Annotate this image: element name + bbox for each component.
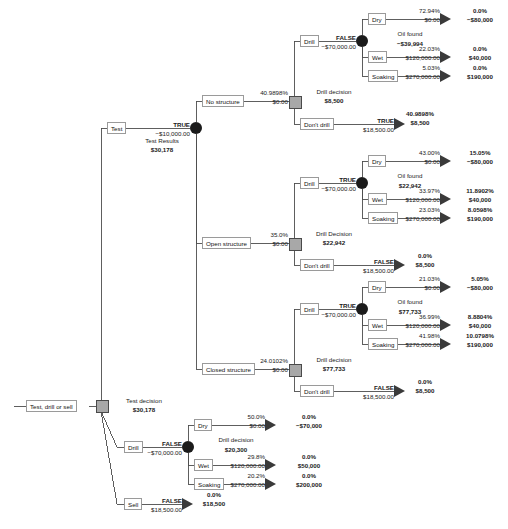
test-results-chance-node[interactable] [190, 122, 202, 134]
closed-structure-wet-prob: 36.99% [384, 313, 440, 320]
no-structure-dont-drill-payoff: $18,500.00 [328, 126, 394, 133]
closed-structure-oil-chance-node[interactable] [356, 303, 368, 315]
closed-structure-wet-end-node [440, 319, 451, 331]
closed-structure-wet-endvalue: $40,000 [455, 322, 505, 329]
drill-wet-end-node [265, 459, 276, 471]
test-results-value: $30,178 [122, 146, 202, 153]
closed-structure-drill-flag: TRUE [294, 302, 356, 309]
open-structure-chance-title: Oil found [376, 172, 444, 179]
closed-structure-soaking-endprob: 10.0798% [452, 332, 508, 339]
closed-structure-dry-end-node [440, 281, 451, 293]
no-structure-wet-end-node [440, 51, 451, 63]
drill-wet-endvalue: $50,000 [282, 462, 336, 469]
closed-structure-soaking-prob: 41.98% [384, 332, 440, 339]
no-structure-soaking-endprob: 0.0% [455, 64, 505, 71]
drill-dry-end-node [265, 419, 276, 431]
open-structure-soaking-prob: 23.03% [384, 206, 440, 213]
closed-structure-wet-endprob: 8.8804% [455, 313, 505, 320]
closed-structure-payoff: $0.00 [216, 366, 288, 373]
closed-structure-dry-endvalue: −$80,000 [455, 284, 505, 291]
sell-endvalue: $18,500 [185, 500, 243, 507]
drill-soaking-end-node [265, 478, 276, 490]
drill-decision-title: Drill decision [200, 436, 272, 443]
open-structure-decision-title: Drill Decision [294, 230, 374, 237]
open-structure-dry-endvalue: −$80,000 [455, 158, 505, 165]
no-structure-drill-cost: −$70,000.00 [288, 43, 356, 50]
open-structure-dry-prob: 43.00% [384, 149, 440, 156]
drill-wet-endprob: 0.0% [282, 453, 336, 460]
no-structure-soaking-endvalue: $190,000 [455, 73, 505, 80]
open-structure-drill-flag: TRUE [294, 176, 356, 183]
open-structure-dry-endprob: 15.05% [455, 149, 505, 156]
drill-flag: FALSE [120, 440, 182, 447]
no-structure-wet-payoff: $120,000.00 [374, 54, 440, 61]
closed-structure-dry-payoff: $0.00 [374, 284, 440, 291]
closed-structure-dont-drill-payoff: $18,500.00 [328, 393, 394, 400]
drill-cost: −$70,000.00 [114, 449, 182, 456]
no-structure-oil-chance-node[interactable] [356, 35, 368, 47]
closed-structure-decision-value: $77,733 [294, 365, 374, 372]
no-structure-dry-endprob: 0.0% [455, 7, 505, 14]
no-structure-prob: 40.9898% [216, 89, 288, 96]
open-structure-dry-end-node [440, 155, 451, 167]
closed-structure-prob: 24.0102% [216, 357, 288, 364]
no-structure-dry-prob: 72.94% [384, 7, 440, 14]
root-decision-title: Test decision [104, 397, 184, 404]
open-structure-dont-drill-flag: FALSE [334, 258, 394, 265]
no-structure-soaking-end-node [440, 70, 451, 82]
closed-structure-dont-drill-endvalue: $8,500 [395, 387, 455, 394]
open-structure-dont-drill-payoff: $18,500.00 [328, 267, 394, 274]
drill-wet-prob: 29.8% [210, 453, 265, 460]
open-structure-soaking-endprob: 8.0598% [455, 206, 505, 213]
closed-structure-chance-title: Oil found [376, 298, 444, 305]
drill-soaking-endvalue: $200,000 [282, 481, 336, 488]
no-structure-chance-title: Oil found [376, 30, 444, 37]
open-structure-wet-payoff: $120,000.00 [374, 196, 440, 203]
open-structure-wet-end-node [440, 193, 451, 205]
drill-dry-endvalue: −$70,000 [282, 422, 336, 429]
test-cost: −$10,000.00 [122, 130, 190, 137]
closed-structure-decision-title: Drill decision [294, 356, 374, 363]
no-structure-decision-title: Drill decision [294, 88, 374, 95]
open-structure-prob: 35.0% [222, 231, 288, 238]
no-structure-wet-endvalue: $40,000 [455, 54, 505, 61]
open-structure-wet-prob: 33.97% [384, 187, 440, 194]
no-structure-payoff: $0.00 [216, 98, 288, 105]
open-structure-soaking-end-node [440, 212, 451, 224]
no-structure-wet-prob: 22.03% [384, 45, 440, 52]
open-structure-dry-payoff: $0.00 [374, 158, 440, 165]
no-structure-soaking-payoff: $270,000.00 [374, 73, 440, 80]
open-structure-dont-drill-endprob: 0.0% [395, 252, 455, 259]
root-label[interactable]: Test, drill or sell [26, 400, 77, 412]
test-flag: TRUE [128, 121, 190, 128]
open-structure-soaking-endvalue: $190,000 [455, 215, 505, 222]
closed-structure-soaking-endvalue: $190,000 [452, 341, 508, 348]
open-structure-oil-chance-node[interactable] [356, 177, 368, 189]
open-structure-payoff: $0.00 [222, 240, 288, 247]
closed-structure-soaking-end-node [440, 338, 451, 350]
no-structure-soaking-prob: 5.03% [384, 64, 440, 71]
sell-payoff: $18,500.00 [116, 506, 182, 513]
open-structure-drill-cost: −$70,000.00 [288, 185, 356, 192]
no-structure-dont-drill-endprob: 40.9898% [385, 110, 455, 117]
no-structure-dont-drill-endvalue: $8,500 [385, 119, 455, 126]
no-structure-dry-payoff: $0.00 [374, 16, 440, 23]
root-decision-value: $30,178 [104, 406, 184, 413]
drill-dry-payoff: $0.00 [200, 422, 265, 429]
drill-dry-endprob: 0.0% [282, 413, 336, 420]
open-structure-soaking-payoff: $270,000.00 [374, 215, 440, 222]
closed-structure-dry-endprob: 5.05% [455, 275, 505, 282]
drill-decision-value: $20,300 [200, 446, 272, 453]
no-structure-drill-flag: FALSE [294, 34, 356, 41]
closed-structure-soaking-payoff: $270,000.00 [374, 341, 440, 348]
drill-chance-node[interactable] [182, 441, 194, 453]
drill-dry-prob: 50.0% [210, 413, 265, 420]
closed-structure-dont-drill-endprob: 0.0% [395, 378, 455, 385]
drill-soaking-payoff: $270,000.00 [200, 481, 265, 488]
closed-structure-dont-drill-flag: FALSE [334, 384, 394, 391]
decision-tree-diagram: Test, drill or sell Test decision $30,17… [0, 0, 508, 529]
open-structure-decision-value: $22,942 [294, 239, 374, 246]
open-structure-wet-endvalue: $40,000 [455, 196, 505, 203]
closed-structure-wet-payoff: $120,000.00 [374, 322, 440, 329]
test-results-title: Test Results [122, 137, 202, 144]
